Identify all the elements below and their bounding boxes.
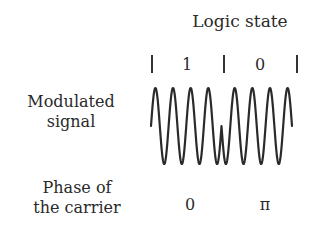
phase-label-line2: the carrier bbox=[0, 198, 154, 217]
phase-value-0: 0 bbox=[180, 195, 200, 214]
phase-label-line1: Phase of bbox=[0, 178, 154, 197]
phase-value-pi: π bbox=[255, 195, 275, 214]
